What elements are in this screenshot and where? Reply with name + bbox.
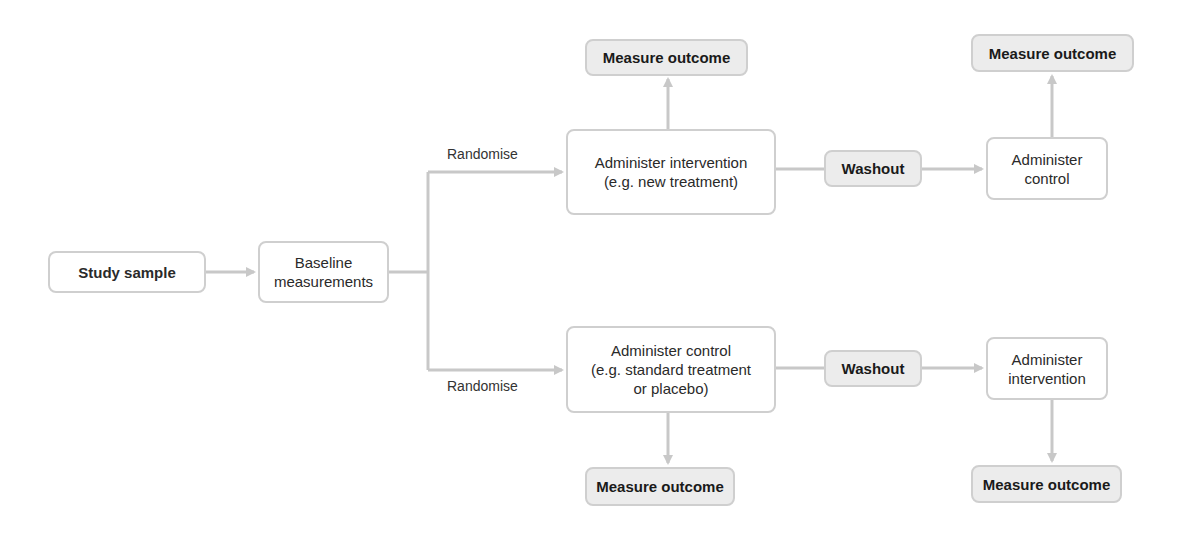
label-randomise-top: Randomise [447, 146, 518, 162]
node-study-sample: Study sample [48, 251, 206, 293]
node-bottom-washout-label: Washout [842, 359, 905, 378]
node-top-administer-control: Administer control [986, 137, 1108, 200]
node-bottom-control-label: Administer control (e.g. standard treatm… [591, 341, 751, 398]
node-bottom-washout: Washout [824, 350, 922, 387]
node-baseline-measurements: Baseline measurements [258, 241, 389, 303]
node-top-control-label: Administer control [1012, 150, 1083, 188]
node-bottom-measure-outcome-1: Measure outcome [585, 467, 735, 506]
node-baseline-label: Baseline measurements [274, 253, 373, 291]
node-bottom-outcome-1-label: Measure outcome [596, 477, 724, 496]
node-study-sample-label: Study sample [78, 263, 176, 282]
node-top-washout: Washout [824, 150, 922, 187]
label-randomise-bottom: Randomise [447, 378, 518, 394]
node-bottom-administer-intervention: Administer intervention [986, 337, 1108, 400]
node-top-measure-outcome-2: Measure outcome [971, 34, 1134, 72]
node-top-intervention-label: Administer intervention (e.g. new treatm… [595, 153, 748, 191]
node-bottom-measure-outcome-2: Measure outcome [971, 465, 1122, 503]
node-top-washout-label: Washout [842, 159, 905, 178]
node-top-outcome-2-label: Measure outcome [989, 44, 1117, 63]
node-top-administer-intervention: Administer intervention (e.g. new treatm… [566, 129, 776, 215]
node-top-measure-outcome-1: Measure outcome [585, 39, 748, 76]
node-bottom-intervention-label: Administer intervention [1008, 350, 1086, 388]
node-bottom-administer-control: Administer control (e.g. standard treatm… [566, 326, 776, 413]
node-bottom-outcome-2-label: Measure outcome [983, 475, 1111, 494]
node-top-outcome-1-label: Measure outcome [603, 48, 731, 67]
